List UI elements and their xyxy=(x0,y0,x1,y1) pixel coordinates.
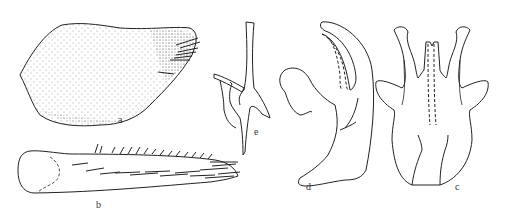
panel-d-drawing xyxy=(280,22,374,186)
panel-label-e: e xyxy=(254,126,258,137)
panel-b-drawing xyxy=(18,144,240,193)
figure-drawings xyxy=(0,0,505,217)
panel-label-d: d xyxy=(306,181,311,192)
panel-a-drawing xyxy=(20,24,200,126)
panel-label-b: b xyxy=(96,199,101,210)
panel-e-drawing xyxy=(214,22,270,155)
panel-label-c: c xyxy=(455,181,459,192)
panel-label-a: a xyxy=(118,114,122,125)
panel-c-drawing xyxy=(376,27,488,185)
